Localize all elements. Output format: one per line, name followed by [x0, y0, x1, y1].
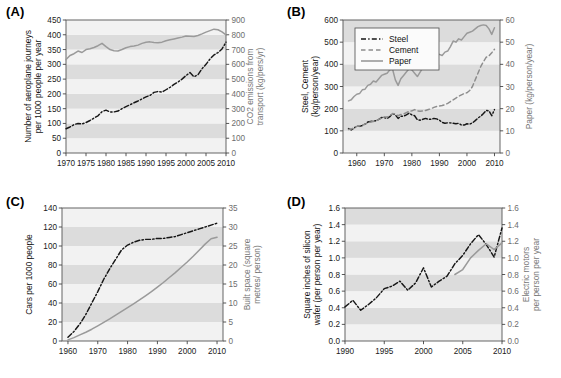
x-tick-label: 2005 — [454, 347, 473, 356]
y-right-tick-label: 900 — [232, 16, 246, 25]
x-tick-label: 2005 — [197, 159, 216, 168]
x-tick-label: 1970 — [375, 159, 394, 168]
y-right-tick-label: 35 — [229, 204, 239, 213]
plot-a: 0501001502002503003504004500100200300400… — [0, 0, 281, 190]
y-right-tick-label: 5 — [229, 318, 234, 327]
chart-panel-c: (C)0204060801001201400510152025303519601… — [0, 190, 281, 378]
y-right-tick-label: 0.0 — [508, 337, 520, 346]
x-tick-label: 1990 — [336, 347, 355, 356]
y-left-tick-label: 120 — [43, 223, 57, 232]
y-left-tick-label: 50 — [52, 134, 62, 143]
x-tick-label: 2000 — [178, 347, 197, 356]
x-tick-label: 1960 — [348, 159, 367, 168]
y-left-tick-label: 150 — [47, 105, 61, 114]
plot-d: 0.00.20.40.60.81.01.21.41.60.00.20.40.60… — [281, 190, 561, 378]
x-tick-label: 1995 — [375, 347, 394, 356]
y-right-tick-label: 700 — [232, 46, 246, 55]
y-right-tick-label: 1.2 — [508, 237, 520, 246]
y-right-tick-label: 800 — [232, 31, 246, 40]
y-right-tick-label: 50 — [506, 38, 516, 47]
y-left-axis-title-group: Number of aeroplane journeysper 1000 peo… — [23, 30, 42, 143]
plot-b: 0100200300400500600010203040506019601970… — [281, 0, 561, 190]
y-right-tick-label: 0 — [232, 149, 237, 158]
y-left-tick-label: 0 — [333, 149, 338, 158]
legend-label-paper: Paper — [389, 56, 412, 66]
y-right-tick-label: 200 — [232, 119, 246, 128]
y-left-tick-label: 0.4 — [329, 304, 341, 313]
y-left-tick-label: 500 — [324, 38, 338, 47]
y-right-tick-label: 20 — [506, 105, 516, 114]
x-tick-label: 2010 — [217, 159, 236, 168]
y-right-tick-label: 0.4 — [508, 304, 520, 313]
panel-label-a: (A) — [6, 4, 25, 19]
y-right-tick-label: 300 — [232, 105, 246, 114]
x-tick-label: 1995 — [157, 159, 176, 168]
y-right-tick-label: 1.0 — [508, 254, 520, 263]
x-tick-label: 2010 — [208, 347, 227, 356]
y-left-tick-label: 100 — [47, 119, 61, 128]
x-tick-label: 1975 — [77, 159, 96, 168]
x-tick-label: 1960 — [59, 347, 78, 356]
y-left-tick-label: 60 — [48, 280, 58, 289]
y-right-tick-label: 600 — [232, 60, 246, 69]
x-tick-label: 2000 — [414, 347, 433, 356]
y-left-tick-label: 1.4 — [329, 221, 341, 230]
y-right-axis-title-group: CO2 emissions fromtransport (kg/pers/yr) — [245, 47, 264, 125]
y-right-tick-label: 100 — [232, 134, 246, 143]
y-left-tick-label: 40 — [48, 299, 58, 308]
figure-panel-grid: (A)0501001502002503003504004500100200300… — [0, 0, 561, 378]
y-right-tick-label: 30 — [506, 83, 516, 92]
y-left-axis-title: wafer (per person per year) — [312, 224, 322, 327]
chart-panel-a: (A)0501001502002503003504004500100200300… — [0, 0, 281, 190]
y-right-tick-label: 10 — [229, 299, 239, 308]
x-tick-label: 1980 — [118, 347, 137, 356]
x-tick-label: 2000 — [177, 159, 196, 168]
y-right-tick-label: 30 — [229, 223, 239, 232]
y-right-tick-label: 10 — [506, 127, 516, 136]
y-right-axis-title-group: Electric motorsper person per year — [521, 238, 540, 311]
y-right-tick-label: 500 — [232, 75, 246, 84]
legend-label-steel: Steel — [389, 34, 408, 44]
y-left-tick-label: 450 — [47, 16, 61, 25]
y-left-tick-label: 0 — [52, 337, 57, 346]
y-right-tick-label: 20 — [229, 261, 239, 270]
y-left-tick-label: 80 — [48, 261, 58, 270]
y-left-tick-label: 0.6 — [329, 287, 341, 296]
chart-panel-b: (B)0100200300400500600010203040506019601… — [281, 0, 561, 190]
y-left-axis-title: per 1000 people per year — [33, 39, 43, 133]
x-tick-label: 1990 — [148, 347, 167, 356]
y-left-axis-title-group: Steel, Cement(kg/person/year) — [300, 56, 319, 117]
panel-label-c: (C) — [6, 194, 25, 209]
y-right-tick-label: 400 — [232, 90, 246, 99]
y-left-axis-title: (kg/person/year) — [310, 56, 320, 117]
x-tick-label: 1990 — [430, 159, 449, 168]
y-left-tick-label: 0 — [56, 149, 61, 158]
y-right-tick-label: 0 — [229, 337, 234, 346]
y-right-axis-title: metres/ person) — [252, 245, 262, 304]
y-left-axis-title-group: Cars per 1000 people — [24, 234, 34, 315]
y-left-tick-label: 100 — [43, 242, 57, 251]
y-right-axis-title: transport (kg/pers/yr) — [255, 47, 265, 125]
x-tick-label: 1985 — [117, 159, 136, 168]
y-left-tick-label: 300 — [47, 60, 61, 69]
panel-label-d: (D) — [287, 194, 306, 209]
y-left-tick-label: 140 — [43, 204, 57, 213]
x-tick-label: 1970 — [89, 347, 108, 356]
y-left-tick-label: 300 — [324, 83, 338, 92]
y-left-axis-title-group: Square inches of siliconwafer (per perso… — [302, 224, 321, 327]
y-left-tick-label: 1.6 — [329, 204, 341, 213]
y-right-tick-label: 0 — [506, 149, 511, 158]
panel-label-b: (B) — [287, 4, 306, 19]
y-right-tick-label: 40 — [506, 60, 516, 69]
x-tick-label: 2000 — [458, 159, 477, 168]
y-right-tick-label: 0.2 — [508, 320, 520, 329]
y-right-axis-title-group: Built space (squaremetres/ person) — [242, 238, 261, 310]
y-left-tick-label: 100 — [324, 127, 338, 136]
y-left-tick-label: 250 — [47, 75, 61, 84]
y-left-tick-label: 200 — [324, 105, 338, 114]
y-right-tick-label: 0.6 — [508, 287, 520, 296]
y-left-tick-label: 1.0 — [329, 254, 341, 263]
y-right-tick-label: 0.8 — [508, 271, 520, 280]
y-right-axis-title-group: Paper (kg/person/year) — [524, 43, 534, 129]
y-left-tick-label: 0.8 — [329, 271, 341, 280]
